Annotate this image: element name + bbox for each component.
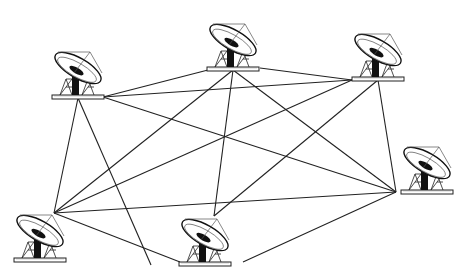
link-D-F: [243, 192, 396, 262]
link-E-F: [54, 213, 180, 262]
mesh-network-diagram: [0, 0, 465, 277]
antenna-top-right-icon: [350, 28, 405, 81]
antenna-top-left-icon: [50, 46, 105, 99]
link-A-E: [54, 98, 78, 213]
link-B-D: [233, 70, 396, 192]
link-B-C: [260, 68, 352, 80]
antenna-bottom-left-icon: [12, 209, 67, 262]
link-A-F: [78, 98, 151, 265]
link-C-D: [378, 80, 396, 192]
link-A-C: [103, 80, 352, 97]
antenna-top-center-icon: [205, 18, 260, 71]
link-B-E: [54, 70, 233, 213]
link-D-E: [54, 192, 396, 213]
link-B-F: [214, 70, 233, 216]
link-A-D: [103, 97, 396, 192]
link-C-F: [214, 80, 378, 216]
mesh-links: [54, 68, 396, 265]
antenna-bottom-center-icon: [177, 213, 232, 266]
antenna-right-icon: [399, 141, 454, 194]
